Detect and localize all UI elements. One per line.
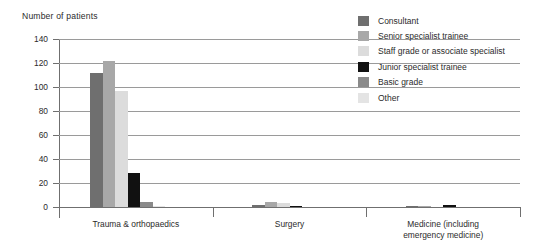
bar: [153, 206, 166, 207]
legend-label: Basic grade: [378, 77, 423, 87]
category-label-line: Surgery: [213, 219, 367, 230]
category-label-line: Trauma & orthopaedics: [59, 219, 213, 230]
legend-label: Staff grade or associate specialist: [378, 46, 505, 56]
legend-swatch-icon: [358, 16, 369, 26]
axis-baseline: [59, 207, 520, 208]
legend-swatch-icon: [358, 93, 369, 103]
legend-label: Other: [378, 93, 399, 103]
bar: [140, 202, 153, 207]
x-axis-endcap: [59, 207, 60, 217]
legend-swatch-icon: [358, 77, 369, 87]
legend-item: Consultant: [358, 13, 505, 28]
bar-group: [252, 39, 327, 207]
bar: [443, 205, 456, 207]
y-tick-label: 140: [18, 34, 48, 44]
bar: [128, 173, 141, 207]
legend-label: Consultant: [378, 16, 419, 26]
legend-swatch-icon: [358, 62, 369, 72]
category-label-line: Medicine (including: [366, 219, 520, 230]
category-separator: [366, 207, 367, 217]
legend-label: Senior specialist trainee: [378, 31, 468, 41]
bar: [418, 206, 431, 207]
bar: [277, 203, 290, 207]
legend-item: Other: [358, 90, 505, 105]
y-tick-label: 20: [18, 178, 48, 188]
bar-chart: Number of patients 020406080100120140 Tr…: [0, 0, 547, 250]
legend-item: Staff grade or associate specialist: [358, 44, 505, 59]
y-tick-label: 80: [18, 106, 48, 116]
legend-label: Junior specialist trainee: [378, 62, 467, 72]
y-axis-title: Number of patients: [22, 11, 98, 21]
bar: [265, 202, 278, 207]
legend-swatch-icon: [358, 46, 369, 56]
y-tick-label: 60: [18, 130, 48, 140]
bar: [290, 206, 303, 207]
category-label: Trauma & orthopaedics: [59, 219, 213, 230]
bar: [90, 73, 103, 207]
x-axis-endcap: [520, 207, 521, 217]
category-label: Surgery: [213, 219, 367, 230]
bar: [103, 61, 116, 207]
category-label: Medicine (includingemergency medicine): [366, 219, 520, 240]
legend-item: Junior specialist trainee: [358, 59, 505, 74]
bar: [252, 205, 265, 207]
y-tick-label: 40: [18, 154, 48, 164]
bar-group: [90, 39, 165, 207]
legend-item: Senior specialist trainee: [358, 28, 505, 43]
y-tick-label: 100: [18, 82, 48, 92]
legend-swatch-icon: [358, 31, 369, 41]
legend: ConsultantSenior specialist traineeStaff…: [358, 13, 505, 105]
category-label-line: emergency medicine): [366, 230, 520, 241]
y-tick-label: 0: [18, 202, 48, 212]
bar: [406, 206, 419, 207]
category-separator: [213, 207, 214, 217]
y-tick-label: 120: [18, 58, 48, 68]
bar: [115, 91, 128, 207]
legend-item: Basic grade: [358, 75, 505, 90]
